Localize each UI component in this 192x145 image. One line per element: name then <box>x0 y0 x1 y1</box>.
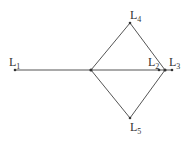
label-l4: L4 <box>130 8 141 24</box>
node-right <box>163 68 166 71</box>
edge-center-l4 <box>91 23 130 70</box>
edges <box>15 23 172 118</box>
labels: L1 L4 L5 L2 L3 <box>9 8 180 136</box>
label-l1: L1 <box>9 55 20 71</box>
edge-l5-right <box>130 70 165 118</box>
label-l3: L3 <box>169 55 180 71</box>
label-l2: L2 <box>148 55 159 71</box>
node-l4 <box>129 22 132 25</box>
node-l5 <box>129 117 132 120</box>
node-center <box>89 68 92 71</box>
edge-center-l5 <box>91 70 130 118</box>
node-l3 <box>171 69 174 72</box>
network-diagram: L1 L4 L5 L2 L3 <box>0 0 192 145</box>
label-l5: L5 <box>130 120 141 136</box>
